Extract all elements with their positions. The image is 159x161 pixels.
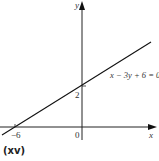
y-intercept-label: 2 bbox=[75, 91, 80, 100]
y-axis-arrow-icon bbox=[79, 1, 85, 10]
figure-caption: (xv) bbox=[3, 145, 25, 156]
origin-label: 0 bbox=[75, 131, 80, 140]
x-intercept-label: −6 bbox=[11, 131, 21, 140]
x-axis-label: x bbox=[149, 131, 153, 140]
y-axis bbox=[79, 1, 85, 140]
graph-line bbox=[2, 42, 151, 135]
equation-label: x − 3y + 6 = 0 bbox=[110, 71, 159, 80]
y-axis-label: y bbox=[75, 1, 79, 10]
